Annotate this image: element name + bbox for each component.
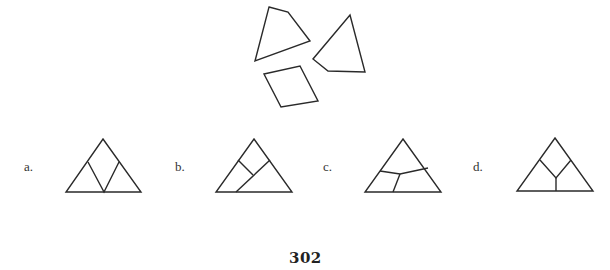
option-b-label: b. [175, 159, 185, 175]
puzzle-piece-3 [264, 66, 318, 107]
option-a-triangle [66, 139, 141, 192]
option-c-triangle [365, 139, 441, 192]
puzzle-piece-1 [255, 7, 310, 61]
option-d-triangle [517, 138, 593, 191]
option-b-triangle [216, 139, 292, 192]
puzzle-figure [0, 0, 610, 270]
option-c-label: c. [323, 159, 332, 175]
puzzle-piece-2 [313, 15, 365, 72]
option-d-label: d. [473, 159, 483, 175]
option-a-label: a. [24, 159, 33, 175]
page-number: 302 [289, 249, 322, 267]
